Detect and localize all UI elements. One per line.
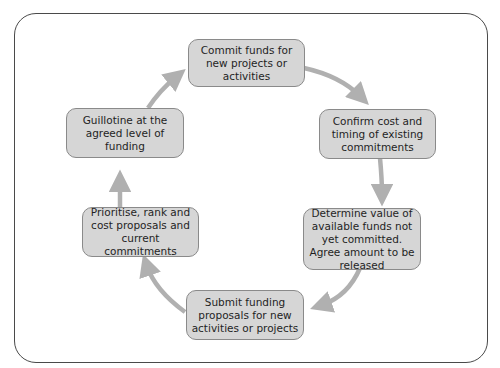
step-prioritise-rank: Prioritise, rank and cost proposals and … (82, 207, 199, 257)
step-label: Guillotine at the agreed level of fundin… (71, 114, 179, 153)
step-confirm-cost: Confirm cost and timing of existing comm… (319, 109, 436, 159)
step-label: Commit funds for new projects or activit… (193, 44, 300, 83)
arrow-submit-to-prioritise (147, 266, 185, 312)
arrow-commit-to-confirm (304, 68, 360, 96)
step-submit-proposals: Submit funding proposals for new activit… (186, 290, 304, 340)
step-determine-value: Determine value of available funds not y… (303, 208, 421, 270)
step-commit-funds: Commit funds for new projects or activit… (188, 39, 305, 87)
arrow-guillotine-to-commit (148, 77, 176, 108)
step-label: Submit funding proposals for new activit… (191, 296, 299, 335)
arrow-determine-to-submit (322, 268, 360, 305)
step-guillotine: Guillotine at the agreed level of fundin… (66, 108, 184, 158)
step-label: Confirm cost and timing of existing comm… (324, 115, 431, 154)
step-label: Prioritise, rank and cost proposals and … (87, 206, 194, 258)
step-label: Determine value of available funds not y… (308, 207, 416, 272)
arrow-confirm-to-determine (380, 158, 382, 194)
